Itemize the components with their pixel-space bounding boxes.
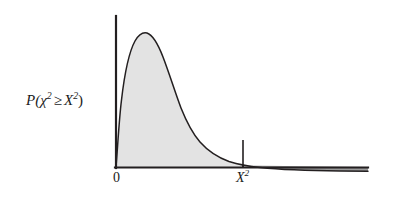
x-axis-tick-critical-value: X2	[236, 171, 249, 185]
critical-value-exponent: 2	[245, 168, 250, 178]
chi-symbol: χ	[40, 92, 47, 108]
probability-expression-prefix: P(	[26, 92, 40, 108]
greater-equal-symbol: ≥	[52, 92, 64, 108]
critical-value-base: X	[236, 170, 245, 185]
probability-expression-label: P(χ2≥X2)	[26, 93, 83, 108]
statistic-symbol: X	[64, 92, 73, 108]
probability-expression-suffix: )	[78, 92, 83, 108]
x-axis-tick-zero: 0	[113, 171, 120, 185]
chi-exponent: 2	[47, 90, 52, 101]
